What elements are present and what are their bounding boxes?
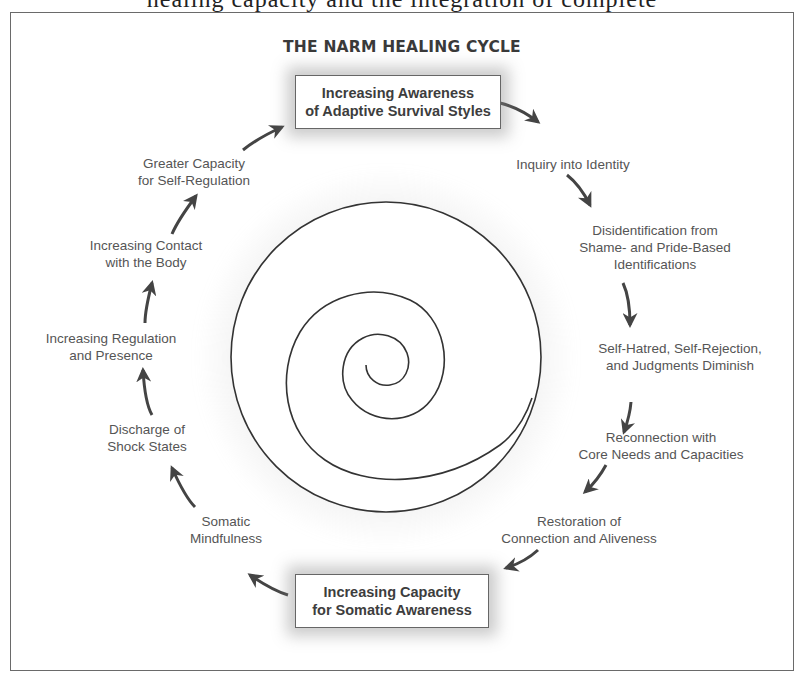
step-self-regulation-capacity: Greater Capacity for Self-Regulation — [138, 155, 250, 189]
step-somatic-mindfulness: Somatic Mindfulness — [190, 513, 262, 547]
step-inquiry-into-identity: Inquiry into Identity — [516, 156, 629, 173]
step-line: Increasing Contact — [90, 237, 203, 254]
center-circle — [231, 202, 541, 512]
arrow-icon — [567, 175, 590, 205]
step-line: Shock States — [107, 438, 187, 455]
arrow-icon — [145, 283, 152, 323]
step-line: Greater Capacity — [138, 155, 250, 172]
step-line: Increasing Regulation — [46, 330, 177, 347]
step-line: Restoration of — [501, 513, 656, 530]
step-line: Mindfulness — [190, 530, 262, 547]
step-line: Self-Hatred, Self-Rejection, — [598, 340, 762, 357]
step-line: with the Body — [90, 254, 203, 271]
step-line: Somatic — [190, 513, 262, 530]
top-box-line1: Increasing Awareness — [322, 84, 474, 102]
arrow-icon — [243, 127, 282, 150]
arrow-icon — [624, 402, 631, 432]
step-line: Reconnection with — [578, 429, 743, 446]
step-line: Connection and Aliveness — [501, 530, 656, 547]
step-disidentification: Disidentification from Shame- and Pride-… — [579, 222, 731, 273]
step-discharge-shock-states: Discharge of Shock States — [107, 421, 187, 455]
step-line: Inquiry into Identity — [516, 156, 629, 173]
top-box-line2: of Adaptive Survival Styles — [305, 102, 491, 120]
step-line: and Judgments Diminish — [598, 357, 762, 374]
bottom-box-line2: for Somatic Awareness — [312, 601, 472, 619]
step-line: and Presence — [46, 347, 177, 364]
step-line: for Self-Regulation — [138, 172, 250, 189]
arrow-icon — [143, 370, 152, 415]
arrow-icon — [172, 196, 196, 234]
arrow-icon — [172, 468, 195, 507]
arrow-icon — [506, 550, 538, 568]
arrow-icon — [623, 283, 630, 325]
bottom-stage-box: Increasing Capacity for Somatic Awarenes… — [295, 574, 489, 628]
step-contact-with-body: Increasing Contact with the Body — [90, 237, 203, 271]
step-line: Discharge of — [107, 421, 187, 438]
arrow-icon — [250, 575, 288, 595]
step-reconnection-core-needs: Reconnection with Core Needs and Capacit… — [578, 429, 743, 463]
arrow-icon — [585, 465, 606, 492]
step-restoration-connection: Restoration of Connection and Aliveness — [501, 513, 656, 547]
top-stage-box: Increasing Awareness of Adaptive Surviva… — [295, 75, 501, 129]
bottom-box-line1: Increasing Capacity — [324, 583, 461, 601]
arrow-icon — [500, 103, 538, 122]
step-self-hatred-diminish: Self-Hatred, Self-Rejection, and Judgmen… — [598, 340, 762, 374]
step-line: Shame- and Pride-Based — [579, 239, 731, 256]
step-line: Identifications — [579, 256, 731, 273]
step-line: Core Needs and Capacities — [578, 446, 743, 463]
step-regulation-presence: Increasing Regulation and Presence — [46, 330, 177, 364]
step-line: Disidentification from — [579, 222, 731, 239]
